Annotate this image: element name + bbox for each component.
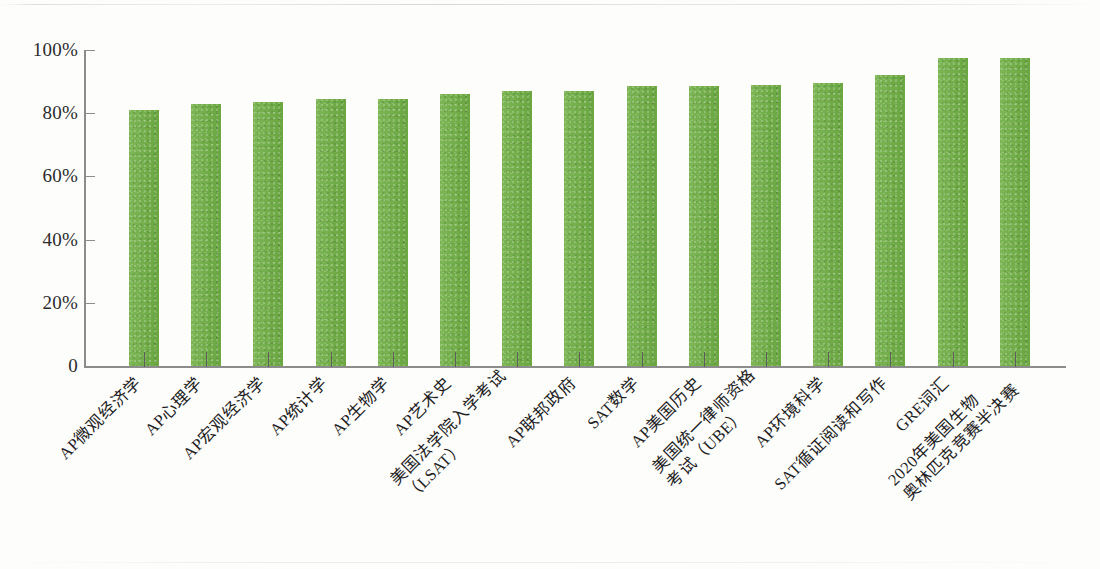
x-axis-category-label: AP生物学 xyxy=(328,374,394,440)
x-tick-mark xyxy=(331,352,332,367)
bar xyxy=(191,104,221,366)
x-tick-mark xyxy=(890,352,891,367)
bar xyxy=(813,83,843,366)
x-tick-mark xyxy=(268,352,269,367)
x-axis-category-label: SAT循证阅读和写作 xyxy=(771,373,892,494)
x-tick-mark xyxy=(393,352,394,367)
x-axis-category-label: AP微观经济学 xyxy=(55,373,145,463)
y-tick-mark xyxy=(86,366,95,367)
bar xyxy=(689,86,719,366)
x-axis-category-label-line: AP心理学 xyxy=(141,374,206,439)
x-tick-mark xyxy=(766,352,767,367)
x-axis-category-label-line: AP微观经济学 xyxy=(55,373,145,463)
y-tick-label: 0 xyxy=(68,355,78,377)
x-tick-mark xyxy=(517,352,518,367)
x-axis-category-label-line: SAT循证阅读和写作 xyxy=(771,373,891,493)
y-axis-line xyxy=(84,50,86,368)
bar xyxy=(564,91,594,366)
bar xyxy=(129,110,159,366)
y-tick-label: 100% xyxy=(33,39,78,61)
y-tick-label: 60% xyxy=(43,165,78,187)
x-axis-category-label: 美国统一律师资格考试（UBE） xyxy=(648,365,775,492)
y-tick-label: 40% xyxy=(43,229,78,251)
y-tick-mark xyxy=(86,240,95,241)
x-axis-category-label-line: AP生物学 xyxy=(328,374,393,439)
bar xyxy=(378,99,408,366)
bar xyxy=(502,91,532,366)
x-axis-category-label-line: AP统计学 xyxy=(266,374,331,439)
x-axis-line xyxy=(84,366,1066,368)
chart-canvas: 020%40%60%80%100% AP微观经济学AP心理学AP宏观经济学AP统… xyxy=(0,0,1100,569)
x-tick-mark xyxy=(642,352,643,367)
bar xyxy=(440,94,470,366)
y-tick-mark xyxy=(86,113,95,114)
bar xyxy=(1000,58,1030,366)
y-tick-label: 20% xyxy=(43,292,78,314)
x-tick-mark xyxy=(704,352,705,367)
bar xyxy=(938,58,968,366)
y-tick-label: 80% xyxy=(43,102,78,124)
x-tick-mark xyxy=(455,352,456,367)
y-tick-mark xyxy=(86,50,95,51)
x-tick-mark xyxy=(206,352,207,367)
x-tick-mark xyxy=(1015,352,1016,367)
bar xyxy=(316,99,346,366)
x-tick-mark xyxy=(953,352,954,367)
bar xyxy=(253,102,283,366)
bar xyxy=(627,86,657,366)
bar xyxy=(751,85,781,366)
x-tick-mark xyxy=(828,352,829,367)
x-axis-category-label: AP统计学 xyxy=(266,374,332,440)
y-tick-mark xyxy=(86,176,95,177)
x-axis-category-label: SAT数学 xyxy=(583,373,643,433)
x-tick-mark xyxy=(579,352,580,367)
y-tick-mark xyxy=(86,303,95,304)
bar xyxy=(875,75,905,366)
x-axis-category-label-line: SAT数学 xyxy=(583,373,642,432)
x-tick-mark xyxy=(144,352,145,367)
bar-chart-plot-area: 020%40%60%80%100% AP微观经济学AP心理学AP宏观经济学AP统… xyxy=(0,0,1100,569)
